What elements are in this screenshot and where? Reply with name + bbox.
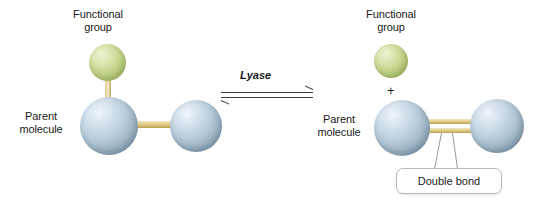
right-functional-group-sphere (374, 44, 408, 78)
right-parent-sphere-b (470, 99, 524, 153)
plus-sign: + (387, 84, 395, 97)
forward-arrow-head (305, 85, 314, 90)
right-functional-group-label: Functional group (345, 8, 437, 34)
right-parent-sphere-a (374, 100, 430, 156)
reverse-arrow-head (221, 100, 230, 105)
figure-canvas: Functional group Parent molecule Lyase F… (0, 0, 540, 210)
enzyme-label: Lyase (240, 69, 271, 81)
forward-arrow-line (221, 92, 313, 93)
right-parent-molecule-label: Parent molecule (302, 113, 376, 139)
double-bond-callout: Double bond (396, 168, 502, 194)
reverse-arrow-line (221, 97, 313, 98)
double-bond-callout-label: Double bond (418, 175, 480, 187)
